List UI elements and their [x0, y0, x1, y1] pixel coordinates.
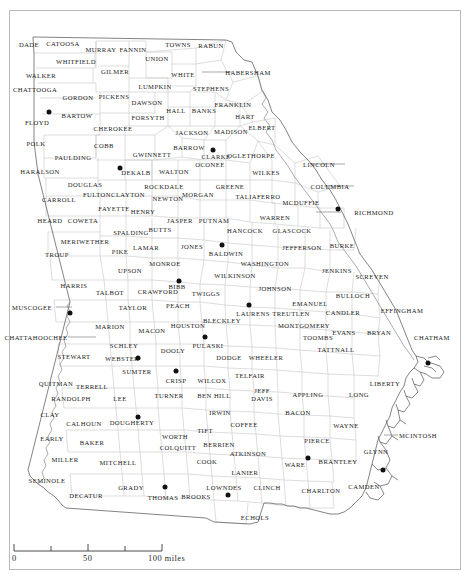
county-label-meriwether: MERIWETHER [61, 238, 109, 245]
county-label-irwin: IRWIN [209, 409, 231, 416]
county-label-rabun: RABUN [198, 42, 223, 49]
county-label-randolph: RANDOLPH [51, 395, 91, 402]
county-label-lanier: LANIER [232, 469, 259, 476]
county-label-echols: ECHOLS [241, 514, 269, 521]
county-label-montgomery: MONTGOMERY [278, 322, 330, 329]
county-label-ware: WARE [285, 461, 305, 468]
scale-label-0: 0 [12, 554, 17, 563]
fulton-city-dot [118, 166, 123, 171]
county-label-schley: SCHLEY [110, 342, 138, 349]
county-label-effingham: EFFINGHAM [381, 307, 424, 314]
laurens-city-dot [247, 303, 252, 308]
county-label-clayton: CLAYTON [111, 191, 145, 198]
county-label-franklin: FRANKLIN [215, 101, 252, 108]
county-label-grady: GRADY [118, 484, 144, 491]
county-label-sumter: SUMTER [122, 368, 151, 375]
county-label-jackson: JACKSON [176, 129, 209, 136]
county-label-elbert: ELBERT [248, 124, 275, 131]
county-label-gilmer: GILMER [101, 68, 129, 75]
county-label-brooks: BROOKS [181, 493, 210, 500]
county-label-union: UNION [145, 55, 169, 62]
county-label-bulloch: BULLOCH [336, 292, 370, 299]
county-label-spalding: SPALDING [113, 229, 149, 236]
county-label-davis: DAVIS [251, 395, 273, 402]
county-label-fannin: FANNIN [119, 46, 146, 53]
county-label-dade: DADE [19, 41, 39, 48]
county-label-towns: TOWNS [165, 41, 191, 48]
county-label-bryan: BRYAN [367, 329, 391, 336]
county-label-twiggs: TWIGGS [192, 290, 220, 297]
county-label-talbot: TALBOT [96, 289, 124, 296]
county-label-walton: WALTON [159, 168, 189, 175]
county-label-stewart: STEWART [57, 353, 90, 360]
county-label-miller: MILLER [51, 456, 78, 463]
county-label-columbia: COLUMBIA [311, 183, 350, 190]
county-label-putnam: PUTNAM [199, 217, 230, 224]
county-label-forsyth: FORSYTH [131, 114, 164, 121]
county-label-dawson: DAWSON [131, 99, 162, 106]
county-label-seminole: SEMINOLE [29, 477, 66, 484]
map-page: DADECATOOSAMURRAYFANNINTOWNSRABUNWHITFIE… [0, 0, 470, 585]
county-label-polk: POLK [26, 140, 45, 147]
county-label-upson: UPSON [118, 267, 142, 274]
county-label-clinch: CLINCH [253, 484, 280, 491]
county-label-glynn: GLYNN [364, 448, 389, 455]
county-label-floyd: FLOYD [25, 119, 49, 126]
county-label-peach: PEACH [166, 302, 190, 309]
dougherty-city-dot [136, 415, 141, 420]
county-label-marion: MARION [95, 323, 124, 330]
county-label-toombs: TOOMBS [303, 334, 333, 341]
county-label-pierce: PIERCE [304, 437, 329, 444]
county-label-tattnall: TATTNALL [318, 346, 355, 353]
county-label-douglas: DOUGLAS [68, 181, 103, 188]
county-label-wilcox: WILCOX [197, 377, 226, 384]
county-label-ben-hill: BEN HILL [197, 392, 230, 399]
county-label-hall: HALL [166, 107, 185, 114]
county-label-richmond: RICHMOND [354, 209, 394, 216]
county-label-pike: PIKE [112, 248, 128, 255]
county-label-worth: WORTH [162, 433, 188, 440]
county-label-dougherty: DOUGHERTY [110, 419, 155, 426]
county-label-burke: BURKE [330, 242, 355, 249]
county-label-jeff: JEFF [254, 387, 270, 394]
county-label-wilkes: WILKES [252, 169, 280, 176]
county-label-carroll: CARROLL [42, 196, 76, 203]
county-label-oconee: OCONEE [195, 161, 224, 168]
county-label-oglethorpe: OGLETHORPE [227, 152, 275, 159]
county-label-baker: BAKER [80, 439, 105, 446]
county-label-murray: MURRAY [85, 46, 116, 53]
county-label-decatur: DECATUR [69, 492, 103, 499]
county-label-dooly: DOOLY [161, 347, 186, 354]
county-label-newton: NEWTON [152, 195, 183, 202]
county-label-bleckley: BLECKLEY [203, 317, 241, 324]
county-label-brantley: BRANTLEY [319, 458, 358, 465]
clarke-city-dot [211, 148, 216, 153]
county-label-terrell: TERRELL [76, 383, 108, 390]
county-label-walker: WALKER [26, 72, 56, 79]
county-label-candler: CANDLER [326, 309, 360, 316]
county-label-bartow: BARTOW [62, 112, 93, 119]
atlantic-coastline [366, 356, 444, 500]
county-label-warren: WARREN [260, 214, 291, 221]
county-label-long: LONG [349, 391, 369, 398]
county-label-catoosa: CATOOSA [46, 40, 79, 47]
county-label-evans: EVANS [332, 329, 355, 336]
county-label-cherokee: CHEROKEE [94, 125, 133, 132]
county-label-dodge: DODGE [216, 354, 241, 361]
county-label-troup: TROUP [45, 251, 69, 258]
thomas-city-dot [163, 485, 168, 490]
glynn-city-dot [381, 468, 386, 473]
county-label-lamar: LAMAR [133, 244, 159, 251]
county-label-quitman: QUITMAN [39, 380, 73, 387]
county-label-fayette: FAYETTE [98, 205, 129, 212]
county-label-madison: MADISON [214, 128, 248, 135]
county-label-harris: HARRIS [61, 282, 88, 289]
muscogee-city-dot [68, 311, 73, 316]
county-label-morgan: MORGAN [182, 191, 214, 198]
county-label-appling: APPLING [293, 391, 324, 398]
county-label-muscogee: MUSCOGEE [12, 304, 52, 311]
richmond-city-dot [336, 207, 341, 212]
county-label-monroe: MONROE [149, 260, 180, 267]
scale-label-50: 50 [83, 554, 92, 563]
county-label-chattooga: CHATTOOGA [13, 86, 57, 93]
